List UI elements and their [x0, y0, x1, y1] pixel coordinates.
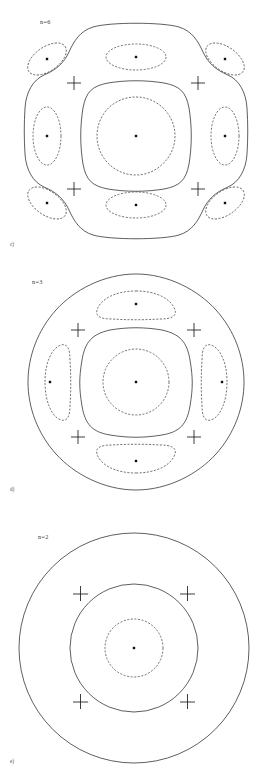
saddle-marker-top-left-n2: [73, 586, 88, 601]
extremum-dot-bottom-right-n6: [224, 202, 226, 204]
extremum-dot-center-n6: [135, 135, 137, 137]
saddle-marker-bottom-right-n3: [187, 430, 201, 444]
extremum-dot-right-n3: [221, 381, 223, 383]
extremum-dot-center-n2: [133, 647, 135, 649]
saddle-marker-top-right-n3: [187, 323, 201, 337]
panel-n3-plot: [0, 262, 272, 502]
saddle-marker-bottom-right-n6: [191, 182, 205, 196]
contour-figure: n=6 c): [0, 0, 272, 783]
extremum-dot-top-left-n6: [46, 58, 48, 60]
saddle-marker-top-left-n3: [71, 323, 85, 337]
lobe-bottom-n3: [97, 444, 176, 473]
panel-n3-n-label: n=3: [32, 278, 43, 285]
lobe-top-n3: [97, 291, 176, 320]
saddle-marker-bottom-left-n3: [71, 430, 85, 444]
saddle-marker-bottom-right-n2: [180, 694, 195, 709]
saddle-marker-bottom-left-n2: [73, 694, 88, 709]
saddle-marker-top-right-n2: [180, 586, 195, 601]
extremum-dot-top-n3: [135, 303, 137, 305]
panel-n6-plot: [0, 0, 272, 262]
extremum-dot-bottom-left-n6: [46, 202, 48, 204]
extremum-dot-top-n6: [135, 56, 137, 58]
extremum-dot-left-n3: [49, 381, 51, 383]
panel-n6-n-label: n=6: [40, 18, 51, 25]
panel-n6: n=6 c): [0, 0, 272, 262]
outer-separatrix-n6: [24, 23, 248, 239]
extremum-dot-bottom-n6: [135, 204, 137, 206]
panel-n2-caption: e): [10, 758, 14, 764]
extremum-dot-left-n6: [46, 135, 48, 137]
panel-n2: n=2 e): [0, 502, 272, 783]
saddle-marker-top-right-n6: [191, 76, 205, 90]
extremum-dot-center-n3: [135, 381, 137, 383]
panel-n3-caption: d): [10, 486, 14, 492]
panel-n2-n-label: n=2: [38, 533, 49, 540]
extremum-dot-right-n6: [224, 135, 226, 137]
extremum-dot-top-right-n6: [224, 58, 226, 60]
panel-n6-caption: c): [10, 241, 14, 247]
saddle-marker-top-left-n6: [67, 76, 81, 90]
panel-n3: n=3 d): [0, 262, 272, 502]
panel-n2-plot: [0, 502, 272, 783]
extremum-dot-bottom-n3: [135, 460, 137, 462]
saddle-marker-bottom-left-n6: [67, 182, 81, 196]
